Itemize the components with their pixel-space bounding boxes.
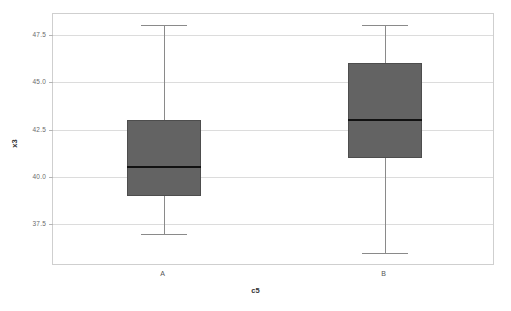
y-tick-mark [49, 130, 53, 131]
category-label-b: B [381, 270, 386, 277]
lower-whisker-cap [362, 253, 408, 254]
box-iqr-rect[interactable] [348, 63, 422, 158]
y-tick-mark [49, 224, 53, 225]
y-tick-label: 42.5 [33, 125, 46, 132]
upper-whisker-cap [362, 25, 408, 26]
y-tick-mark [49, 82, 53, 83]
box-plot-b[interactable] [53, 14, 493, 264]
y-tick-label: 45.0 [33, 78, 46, 85]
y-tick-label: 40.0 [33, 172, 46, 179]
lower-whisker-line [385, 158, 386, 253]
y-tick-label: 47.5 [33, 30, 46, 37]
y-tick-mark [49, 35, 53, 36]
boxplot-figure: x3 37.540.042.545.047.5 AB c5 [0, 0, 511, 311]
y-axis-tick-labels: 37.540.042.545.047.5 [0, 13, 46, 265]
plot-area [52, 13, 494, 265]
y-tick-mark [49, 177, 53, 178]
category-label-a: A [160, 270, 165, 277]
median-line [348, 119, 422, 121]
x-axis-title: c5 [0, 286, 511, 295]
y-tick-label: 37.5 [33, 220, 46, 227]
upper-whisker-line [385, 25, 386, 63]
